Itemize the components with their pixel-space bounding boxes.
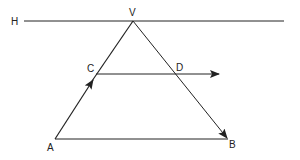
label-C: C <box>87 63 94 74</box>
segment-arrow-V <box>92 21 133 81</box>
label-D: D <box>176 62 183 73</box>
geometry-diagram: H V C D A B <box>0 0 300 160</box>
label-V: V <box>129 7 136 18</box>
label-H: H <box>11 16 18 27</box>
segment-V-B <box>133 21 227 138</box>
segment-A-arrow <box>55 80 93 139</box>
label-B: B <box>229 139 236 150</box>
label-A: A <box>47 142 54 153</box>
